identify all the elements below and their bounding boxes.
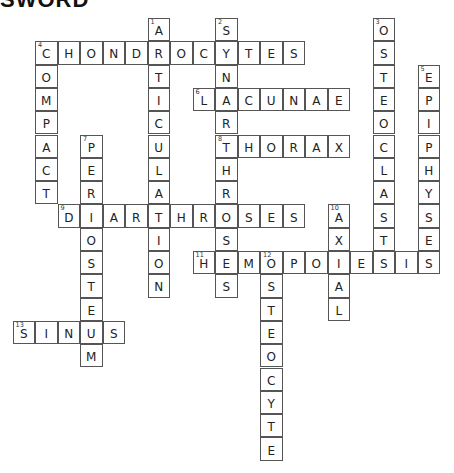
grid-cell[interactable]: L [148, 158, 171, 181]
grid-cell[interactable]: I [148, 228, 171, 251]
grid-cell[interactable]: 2S [215, 18, 238, 41]
grid-cell[interactable]: O [305, 251, 328, 274]
grid-cell[interactable]: S [215, 228, 238, 251]
grid-cell[interactable]: P [35, 111, 58, 134]
grid-cell[interactable]: 10A [328, 204, 351, 227]
grid-cell[interactable]: M [238, 251, 261, 274]
grid-cell[interactable]: C [148, 111, 171, 134]
grid-cell[interactable]: Y [260, 391, 283, 414]
grid-cell[interactable]: H [170, 204, 193, 227]
grid-cell[interactable]: S [283, 204, 306, 227]
grid-cell[interactable]: R [215, 181, 238, 204]
grid-cell[interactable]: 8T [215, 135, 238, 158]
grid-cell[interactable]: E [373, 88, 396, 111]
grid-cell[interactable]: H [58, 41, 81, 64]
grid-cell[interactable]: I [328, 251, 351, 274]
grid-cell[interactable]: C [260, 368, 283, 391]
grid-cell[interactable]: N [103, 41, 126, 64]
grid-cell[interactable]: L [328, 298, 351, 321]
grid-cell[interactable]: 13S [13, 321, 36, 344]
grid-cell[interactable]: X [328, 135, 351, 158]
grid-cell[interactable]: E [80, 298, 103, 321]
grid-cell[interactable]: E [350, 251, 373, 274]
grid-cell[interactable]: T [80, 274, 103, 297]
grid-cell[interactable]: T [260, 298, 283, 321]
grid-cell[interactable]: A [215, 88, 238, 111]
grid-cell[interactable]: U [148, 135, 171, 158]
grid-cell[interactable]: 3O [373, 18, 396, 41]
grid-cell[interactable]: O [80, 41, 103, 64]
grid-cell[interactable]: H [238, 135, 261, 158]
grid-cell[interactable]: 5E [418, 65, 441, 88]
grid-cell[interactable]: O [35, 65, 58, 88]
grid-cell[interactable]: A [148, 181, 171, 204]
grid-cell[interactable]: T [238, 41, 261, 64]
grid-cell[interactable]: E [260, 204, 283, 227]
grid-cell[interactable]: N [283, 88, 306, 111]
grid-cell[interactable]: A [305, 135, 328, 158]
grid-cell[interactable]: L [373, 158, 396, 181]
grid-cell[interactable]: E [215, 251, 238, 274]
grid-cell[interactable]: P [283, 251, 306, 274]
grid-cell[interactable]: T [148, 65, 171, 88]
grid-cell[interactable]: C [238, 88, 261, 111]
grid-cell[interactable]: E [418, 228, 441, 251]
grid-cell[interactable]: C [193, 41, 216, 64]
grid-cell[interactable]: O [260, 135, 283, 158]
grid-cell[interactable]: O [148, 251, 171, 274]
grid-cell[interactable]: E [260, 321, 283, 344]
grid-cell[interactable]: U [260, 88, 283, 111]
grid-cell[interactable]: A [103, 204, 126, 227]
grid-cell[interactable]: I [35, 321, 58, 344]
grid-cell[interactable]: S [215, 274, 238, 297]
grid-cell[interactable]: R [215, 111, 238, 134]
grid-cell[interactable]: Y [215, 41, 238, 64]
grid-cell[interactable]: R [148, 41, 171, 64]
grid-cell[interactable]: R [283, 135, 306, 158]
grid-cell[interactable]: R [193, 204, 216, 227]
grid-cell[interactable]: 4C [35, 41, 58, 64]
grid-cell[interactable]: E [260, 41, 283, 64]
grid-cell[interactable]: M [80, 344, 103, 367]
grid-cell[interactable]: O [215, 204, 238, 227]
grid-cell[interactable]: 11H [193, 251, 216, 274]
grid-cell[interactable]: 7P [80, 135, 103, 158]
grid-cell[interactable]: T [373, 65, 396, 88]
grid-cell[interactable]: 1A [148, 18, 171, 41]
grid-cell[interactable]: P [418, 135, 441, 158]
grid-cell[interactable]: O [260, 344, 283, 367]
grid-cell[interactable]: 9D [58, 204, 81, 227]
grid-cell[interactable]: E [80, 158, 103, 181]
grid-cell[interactable]: T [373, 228, 396, 251]
grid-cell[interactable]: S [373, 251, 396, 274]
grid-cell[interactable]: P [418, 88, 441, 111]
grid-cell[interactable]: O [373, 111, 396, 134]
grid-cell[interactable]: T [260, 414, 283, 437]
grid-cell[interactable]: S [238, 204, 261, 227]
grid-cell[interactable]: I [418, 111, 441, 134]
grid-cell[interactable]: S [373, 204, 396, 227]
grid-cell[interactable]: S [260, 274, 283, 297]
grid-cell[interactable]: S [418, 251, 441, 274]
grid-cell[interactable]: X [328, 228, 351, 251]
grid-cell[interactable]: R [80, 181, 103, 204]
grid-cell[interactable]: E [328, 88, 351, 111]
grid-cell[interactable]: I [80, 204, 103, 227]
grid-cell[interactable]: 12O [260, 251, 283, 274]
grid-cell[interactable]: E [260, 437, 283, 460]
grid-cell[interactable]: S [283, 41, 306, 64]
grid-cell[interactable]: N [148, 274, 171, 297]
grid-cell[interactable]: H [215, 158, 238, 181]
grid-cell[interactable]: D [125, 41, 148, 64]
grid-cell[interactable]: O [80, 228, 103, 251]
grid-cell[interactable]: A [328, 274, 351, 297]
grid-cell[interactable]: R [125, 204, 148, 227]
grid-cell[interactable]: N [215, 65, 238, 88]
grid-cell[interactable]: A [373, 181, 396, 204]
grid-cell[interactable]: S [80, 251, 103, 274]
grid-cell[interactable]: A [35, 135, 58, 158]
grid-cell[interactable]: T [148, 204, 171, 227]
grid-cell[interactable]: M [35, 88, 58, 111]
grid-cell[interactable]: I [395, 251, 418, 274]
grid-cell[interactable]: C [35, 158, 58, 181]
